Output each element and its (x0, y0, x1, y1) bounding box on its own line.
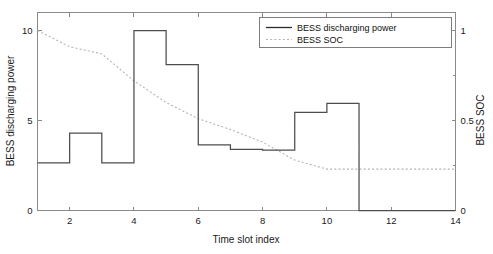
y-right-tick-label: 0 (461, 205, 466, 216)
x-tick-label: 12 (386, 215, 397, 226)
legend-label-soc: BESS SOC (297, 35, 344, 45)
chart-legend: BESS discharging power BESS SOC (260, 18, 452, 48)
legend-label-power: BESS discharging power (297, 23, 397, 33)
y-left-tick-label: 5 (27, 115, 32, 126)
y-right-tick-label: 0.5 (461, 115, 474, 126)
x-tick-label: 14 (450, 215, 461, 226)
x-tick-label: 2 (67, 215, 72, 226)
bess-discharging-power-soc-chart: 2468101214 0510 00.51 Time slot index BE… (0, 0, 493, 254)
chart-figure: 2468101214 0510 00.51 Time slot index BE… (0, 0, 493, 254)
x-tick-label: 8 (260, 215, 265, 226)
x-axis-title: Time slot index (213, 234, 280, 245)
y-axis-right-title: BESS SOC (475, 94, 486, 145)
y-axis-left-title: BESS discharging power (5, 55, 16, 166)
x-tick-label: 4 (131, 215, 136, 226)
y-left-tick-label: 0 (27, 205, 32, 216)
y-left-tick-label: 10 (22, 25, 33, 36)
x-tick-label: 10 (322, 215, 333, 226)
y-right-tick-label: 1 (461, 25, 466, 36)
x-tick-label: 6 (196, 215, 201, 226)
